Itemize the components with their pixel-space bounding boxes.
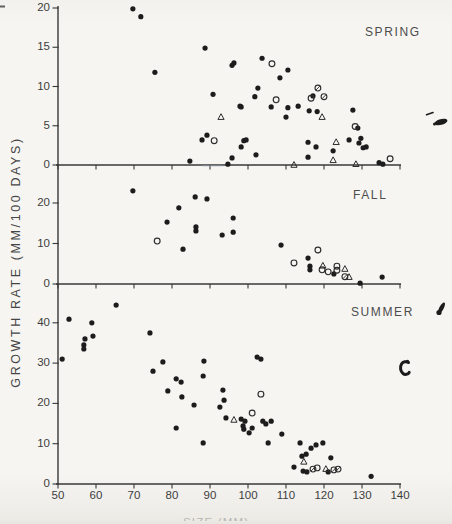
data-point-filled-circle	[191, 402, 196, 407]
data-point-filled-circle	[356, 140, 361, 145]
x-tick-label: 80	[159, 489, 185, 501]
data-point-filled-circle	[225, 162, 230, 167]
data-point-filled-circle	[380, 162, 385, 167]
data-point-open-circle	[387, 156, 393, 162]
x-tick-label: 120	[311, 489, 337, 501]
data-point-filled-circle	[307, 108, 312, 113]
y-tick-label: 40	[28, 316, 50, 328]
data-point-filled-circle	[358, 281, 363, 286]
data-point-filled-circle	[201, 373, 206, 378]
y-tick-label: 20	[28, 396, 50, 408]
data-point-filled-circle	[150, 369, 155, 374]
data-point-filled-circle	[90, 333, 95, 338]
data-point-open-circle	[325, 269, 331, 275]
data-point-filled-circle	[369, 474, 374, 479]
data-point-filled-circle	[358, 136, 363, 141]
data-point-open-circle	[334, 267, 340, 273]
data-point-open-triangle	[333, 139, 339, 145]
data-point-filled-circle	[130, 188, 135, 193]
x-tick-label: 70	[121, 489, 147, 501]
data-point-filled-circle	[305, 255, 310, 260]
ink-mark-icon	[427, 113, 434, 115]
data-point-open-circle	[273, 97, 279, 103]
data-point-filled-circle	[187, 158, 192, 163]
x-tick-label: 90	[197, 489, 223, 501]
data-point-filled-circle	[220, 388, 225, 393]
data-point-filled-circle	[217, 404, 222, 409]
data-point-filled-circle	[252, 94, 257, 99]
data-point-filled-circle	[239, 144, 244, 149]
data-point-filled-circle	[253, 152, 258, 157]
panel-title-summer: SUMMER	[351, 305, 414, 319]
data-point-filled-circle	[328, 455, 333, 460]
x-tick-label: 140	[387, 489, 413, 501]
data-point-slash	[316, 86, 320, 90]
y-axis-label: GROWTH RATE (MM/100 DAYS)	[9, 136, 23, 387]
data-point-filled-circle	[231, 230, 236, 235]
data-point-filled-circle	[331, 148, 336, 153]
data-point-filled-circle	[320, 440, 325, 445]
data-point-open-circle	[154, 238, 160, 244]
data-point-filled-circle	[223, 415, 228, 420]
data-point-open-triangle	[319, 114, 325, 120]
data-point-filled-circle	[165, 388, 170, 393]
data-point-filled-circle	[202, 45, 207, 50]
data-point-filled-circle	[204, 133, 209, 138]
data-point-filled-circle	[176, 205, 181, 210]
y-tick-label: 30	[28, 356, 50, 368]
data-point-filled-circle	[147, 330, 152, 335]
data-point-filled-circle	[114, 302, 119, 307]
data-point-filled-circle	[350, 107, 355, 112]
data-point-filled-circle	[304, 452, 309, 457]
data-point-open-triangle	[330, 157, 336, 163]
data-point-filled-circle	[297, 440, 302, 445]
ink-mark-icon	[434, 117, 448, 126]
data-point-filled-circle	[82, 336, 87, 341]
data-point-open-circle	[291, 260, 297, 266]
data-point-filled-circle	[241, 427, 246, 432]
data-point-filled-circle	[244, 137, 249, 142]
data-point-open-triangle	[301, 458, 307, 464]
data-point-open-circle	[211, 138, 217, 144]
data-point-filled-circle	[269, 104, 274, 109]
scatter-plot-canvas	[0, 0, 452, 524]
data-point-slash	[322, 95, 326, 99]
data-point-filled-circle	[237, 104, 242, 109]
data-point-filled-circle	[66, 317, 71, 322]
data-point-filled-circle	[259, 56, 264, 61]
data-point-filled-circle	[266, 440, 271, 445]
data-point-filled-circle	[180, 247, 185, 252]
ink-mark-icon	[436, 310, 441, 315]
y-tick-label: 10	[28, 80, 50, 92]
data-point-filled-circle	[250, 425, 255, 430]
x-tick-label: 110	[273, 489, 299, 501]
data-point-filled-circle	[201, 440, 206, 445]
data-point-filled-circle	[307, 267, 312, 272]
data-point-filled-circle	[291, 464, 296, 469]
data-point-filled-circle	[255, 85, 260, 90]
y-tick-label: 0	[28, 158, 50, 170]
y-tick-label: 10	[28, 437, 50, 449]
data-point-filled-circle	[220, 232, 225, 237]
panel-title-spring: SPRING	[365, 25, 421, 39]
data-point-filled-circle	[193, 228, 198, 233]
data-point-filled-circle	[160, 359, 165, 364]
y-tick-label: 15	[28, 40, 50, 52]
data-point-filled-circle	[279, 431, 284, 436]
y-tick-label: 20	[28, 1, 50, 13]
data-point-open-triangle	[231, 417, 237, 423]
data-point-filled-circle	[221, 398, 226, 403]
data-point-filled-circle	[152, 70, 157, 75]
data-point-filled-circle	[201, 358, 206, 363]
data-point-filled-circle	[277, 75, 282, 80]
data-point-filled-circle	[229, 155, 234, 160]
data-point-filled-circle	[179, 379, 184, 384]
data-point-open-circle	[315, 247, 321, 253]
data-point-filled-circle	[247, 430, 252, 435]
y-tick-label: 10	[28, 237, 50, 249]
x-axis-label-clipped: SIZE (MM)	[183, 512, 278, 521]
ink-mark-icon	[401, 362, 410, 375]
data-point-filled-circle	[285, 67, 290, 72]
panel-title-fall: FALL	[353, 188, 387, 202]
data-point-open-triangle	[342, 266, 348, 272]
